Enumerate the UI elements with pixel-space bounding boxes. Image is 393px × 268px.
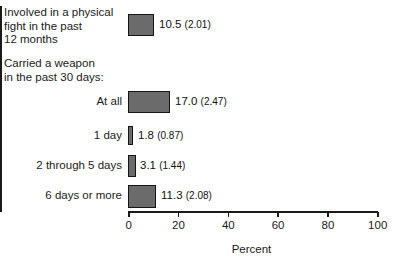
group-heading-physical-fight: Involved in a physical fight in the past… — [4, 6, 124, 47]
bar-value-1-day: 1.8 (0.87) — [138, 129, 183, 141]
x-axis-title-wrapper: Percent — [0, 243, 393, 255]
group-heading-carried-weapon: Carried a weapon in the past 30 days: — [4, 57, 124, 84]
bar-1-day — [128, 126, 133, 145]
x-tick-label-40: 40 — [222, 219, 235, 232]
bar-se-at-all: (2.47) — [201, 96, 227, 107]
bar-estimate-at-all: 17.0 — [175, 95, 197, 107]
x-tick-100 — [377, 212, 379, 217]
bar-value-6-days-or-more: 11.3 (2.08) — [161, 189, 212, 201]
x-tick-label-100: 100 — [368, 219, 387, 232]
x-tick-label-20: 20 — [172, 219, 185, 232]
x-tick-80 — [327, 212, 329, 217]
bar-value-physical-fight: 10.5 (2.01) — [159, 18, 211, 30]
bar-physical-fight — [128, 14, 154, 36]
bar-2-through-5-days — [128, 155, 136, 177]
bar-se-6-days-or-more: (2.08) — [186, 190, 212, 201]
bar-estimate-6-days-or-more: 11.3 — [161, 189, 183, 201]
x-tick-20 — [178, 212, 180, 217]
y-axis-spine — [0, 6, 2, 212]
x-tick-40 — [228, 212, 230, 217]
horizontal-bar-chart: Involved in a physical fight in the past… — [0, 0, 393, 268]
bar-estimate-physical-fight: 10.5 — [159, 18, 181, 30]
bar-at-all — [128, 91, 170, 113]
x-tick-60 — [277, 212, 279, 217]
x-tick-label-0: 0 — [125, 219, 131, 232]
bar-se-1-day: (0.87) — [157, 130, 183, 141]
x-tick-0 — [128, 212, 130, 217]
bar-se-physical-fight: (2.01) — [185, 19, 211, 30]
bar-value-2-through-5-days: 3.1 (1.44) — [140, 159, 185, 171]
category-label-6-days-or-more: 6 days or more — [0, 189, 122, 203]
bar-estimate-1-day: 1.8 — [138, 129, 154, 141]
bar-6-days-or-more — [128, 185, 156, 208]
bar-estimate-2-through-5-days: 3.1 — [140, 159, 156, 171]
bar-se-2-through-5-days: (1.44) — [159, 160, 185, 171]
category-label-2-through-5-days: 2 through 5 days — [0, 159, 122, 173]
x-axis-title: Percent — [232, 243, 272, 255]
x-tick-label-80: 80 — [321, 219, 334, 232]
category-label-at-all: At all — [0, 95, 122, 109]
x-tick-label-60: 60 — [272, 219, 285, 232]
bar-value-at-all: 17.0 (2.47) — [175, 95, 227, 107]
category-label-1-day: 1 day — [0, 129, 122, 143]
x-axis-line — [128, 211, 378, 213]
